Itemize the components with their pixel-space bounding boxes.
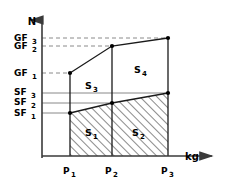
x-tick-p2-sub: 2 xyxy=(113,171,118,179)
region-label-s3-text: S xyxy=(85,80,92,91)
marker-gf1 xyxy=(68,71,72,75)
region-label-s4-sub: 4 xyxy=(142,70,147,78)
region-s2-fill xyxy=(112,93,168,156)
region-label-s1-text: S xyxy=(85,127,92,138)
region-label-s2-sub: 2 xyxy=(140,133,145,141)
marker-sf2 xyxy=(110,101,114,105)
gridlines-dashed xyxy=(42,38,168,73)
marker-sf1 xyxy=(68,111,72,115)
x-tick-p1-sub: 1 xyxy=(71,171,76,179)
x-tick-p3-sub: 3 xyxy=(169,171,174,179)
force-displacement-diagram: N kg GF 3 GF 2 GF 1 SF 3 SF 2 xyxy=(0,0,225,185)
y-tick-sf1-text: SF xyxy=(14,108,27,118)
x-axis-label: kg xyxy=(185,151,199,162)
x-tick-p1-text: P xyxy=(63,166,70,176)
region-label-s1-sub: 1 xyxy=(93,133,98,141)
marker-gf2 xyxy=(110,44,114,48)
region-label-s4-text: S xyxy=(134,64,141,75)
y-tick-gf2-text: GF xyxy=(14,41,28,51)
y-tick-sf3-text: SF xyxy=(14,87,27,97)
x-tick-labels: P 1 P 2 P 3 xyxy=(63,166,174,179)
region-label-s3: S 3 xyxy=(85,80,98,94)
y-tick-gf2-sub: 2 xyxy=(32,46,37,54)
y-tick-sf2-text: SF xyxy=(14,97,27,107)
x-tick-p2-text: P xyxy=(105,166,112,176)
chart-canvas: N kg GF 3 GF 2 GF 1 SF 3 SF 2 xyxy=(0,0,225,185)
marker-gf3 xyxy=(166,36,170,40)
y-tick-gf3-sub: 3 xyxy=(32,38,37,46)
y-tick-gf1-sub: 1 xyxy=(32,73,37,81)
y-axis-label: N xyxy=(28,16,36,27)
region-label-s4: S 4 xyxy=(134,64,147,78)
y-tick-sf2-sub: 2 xyxy=(31,102,36,110)
hatched-areas xyxy=(70,93,168,156)
curve-gf xyxy=(70,38,168,73)
y-tick-sf1-sub: 1 xyxy=(31,113,36,121)
y-tick-gf1-text: GF xyxy=(14,68,28,78)
x-tick-p3-text: P xyxy=(161,166,168,176)
x-tick-p3: P 3 xyxy=(161,166,174,179)
marker-sf3 xyxy=(166,91,170,95)
x-tick-p2: P 2 xyxy=(105,166,118,179)
y-tick-gf1: GF 1 xyxy=(14,68,37,81)
y-tick-sf3-sub: 3 xyxy=(31,92,36,100)
region-label-s3-sub: 3 xyxy=(93,86,98,94)
x-tick-p1: P 1 xyxy=(63,166,76,179)
region-label-s2-text: S xyxy=(132,127,139,138)
y-tick-labels: GF 3 GF 2 GF 1 SF 3 SF 2 SF 1 xyxy=(14,33,37,121)
